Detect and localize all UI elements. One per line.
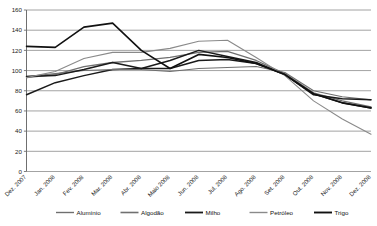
series-line-trigo-lower xyxy=(27,59,372,107)
x-tick-label: Mar. 2008 xyxy=(90,173,114,197)
legend-label: Petróleo xyxy=(270,209,294,216)
series-line-algodao xyxy=(27,51,372,107)
y-tick-labels: 020406080100120140160 xyxy=(12,6,23,175)
x-tick-label: Fev. 2008 xyxy=(62,174,85,197)
y-tick-label: 60 xyxy=(15,107,22,114)
x-tick-label: Jul. 2008 xyxy=(207,174,229,196)
y-tick-label: 20 xyxy=(15,148,22,155)
x-tick-label: Maio 2008 xyxy=(147,174,172,199)
legend-label: Algodão xyxy=(141,209,164,216)
legend-label: Trigo xyxy=(335,209,349,216)
chart-legend: AlumínioAlgodãoMilhoPetróleoTrigo xyxy=(56,209,349,216)
series-line-trigo xyxy=(27,23,372,108)
x-tick-label: Dez. 2008 xyxy=(348,174,372,198)
y-tick-label: 100 xyxy=(12,67,23,74)
x-tick-label: Out. 2008 xyxy=(291,174,314,197)
x-tick-label: Nov. 2008 xyxy=(320,173,344,197)
y-tick-label: 140 xyxy=(12,26,23,33)
gridlines xyxy=(27,10,372,172)
x-tick-label: Dez. 2007 xyxy=(4,174,28,198)
y-tick-label: 120 xyxy=(12,47,23,54)
x-tick-label: Jun. 2008 xyxy=(177,173,200,196)
y-tick-label: 160 xyxy=(12,6,23,13)
plot-series xyxy=(27,23,372,134)
x-tick-label: Ago. 2008 xyxy=(233,173,257,197)
x-tick-label: Jan. 2008 xyxy=(33,173,56,196)
line-chart: 020406080100120140160 Dez. 2007Jan. 2008… xyxy=(0,0,377,226)
y-axis xyxy=(24,10,27,172)
x-tick-label: Abr. 2008 xyxy=(120,173,143,196)
legend-label: Milho xyxy=(206,209,221,216)
x-tick-labels: Dez. 2007Jan. 2008Fev. 2008Mar. 2008Abr.… xyxy=(4,173,373,198)
chart-canvas: 020406080100120140160 Dez. 2007Jan. 2008… xyxy=(0,0,377,226)
y-tick-label: 40 xyxy=(15,127,22,134)
legend-label: Alumínio xyxy=(77,209,102,216)
y-tick-label: 80 xyxy=(15,87,22,94)
x-tick-label: Set. 2008 xyxy=(263,173,286,196)
